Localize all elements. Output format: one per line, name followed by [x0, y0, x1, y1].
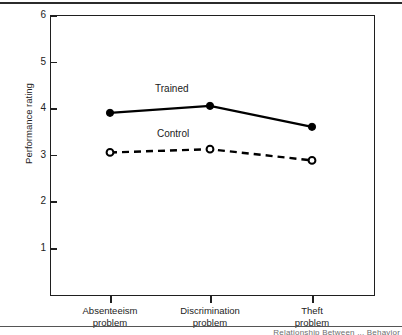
- x-tick-label-discrimination-line1: Discrimination: [180, 305, 240, 316]
- series-label-trained: Trained: [155, 83, 189, 94]
- y-tick-mark-5: [50, 62, 57, 64]
- x-tick-label-theft-line1: Theft: [301, 305, 323, 316]
- y-tick-label-6: 6: [28, 10, 46, 20]
- series-label-control: Control: [157, 128, 189, 139]
- y-tick-mark-4: [50, 108, 57, 110]
- x-tick-mark-discrimination: [210, 296, 212, 303]
- y-tick-label-2: 2: [28, 196, 46, 206]
- y-tick-label-4: 4: [28, 103, 46, 113]
- plot-area-frame: [50, 15, 375, 296]
- x-tick-mark-theft: [312, 296, 314, 303]
- y-tick-mark-3: [50, 155, 57, 157]
- bottom-divider-rule: [0, 326, 402, 327]
- x-tick-label-theft: Theft problem: [257, 305, 367, 328]
- y-tick-label-3: 3: [28, 150, 46, 160]
- x-tick-mark-absenteeism: [110, 296, 112, 303]
- x-tick-label-discrimination: Discrimination problem: [155, 305, 265, 328]
- y-tick-label-1: 1: [28, 243, 46, 253]
- y-tick-mark-1: [50, 248, 57, 250]
- x-tick-label-absenteeism: Absenteeism problem: [55, 305, 165, 328]
- x-tick-label-absenteeism-line1: Absenteeism: [83, 305, 138, 316]
- figure-container: Performance rating 6 5 4 3 2 1 Absenteei…: [0, 0, 402, 335]
- y-tick-label-5: 5: [28, 57, 46, 67]
- y-tick-mark-6: [50, 15, 57, 17]
- y-axis-title: Performance rating: [23, 44, 34, 204]
- figure-caption-clipped: Relationship Between ... Behavior: [0, 328, 402, 335]
- top-divider-rule: [0, 2, 402, 4]
- y-tick-mark-2: [50, 201, 57, 203]
